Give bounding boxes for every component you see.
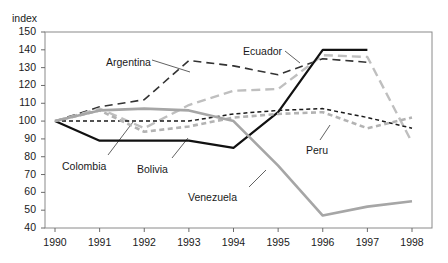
y-tick-label: 90 bbox=[2, 132, 36, 144]
series-label-bolivia: Bolivia bbox=[137, 163, 168, 175]
series-line-bolivia bbox=[55, 109, 412, 129]
x-tick-label: 1993 bbox=[169, 236, 209, 248]
y-tick-label: 60 bbox=[2, 185, 36, 197]
y-tick-label: 130 bbox=[2, 61, 36, 73]
x-tick-label: 1990 bbox=[35, 236, 75, 248]
series-label-venezuela: Venezuela bbox=[188, 191, 237, 203]
y-tick-label: 40 bbox=[2, 221, 36, 233]
leader-line-argentina bbox=[152, 60, 190, 72]
series-label-colombia: Colombia bbox=[62, 160, 106, 172]
y-tick-label: 110 bbox=[2, 96, 36, 108]
plot-frame bbox=[45, 32, 432, 228]
y-tick-label: 150 bbox=[2, 25, 36, 37]
y-tick-label: 120 bbox=[2, 78, 36, 90]
x-tick-label: 1995 bbox=[258, 236, 298, 248]
y-tick-label: 70 bbox=[2, 168, 36, 180]
x-tick-label: 1994 bbox=[214, 236, 254, 248]
series-label-peru: Peru bbox=[306, 144, 328, 156]
chart-plot-area bbox=[0, 0, 448, 263]
series-label-ecuador: Ecuador bbox=[243, 45, 282, 57]
leader-line-peru bbox=[320, 125, 330, 140]
x-tick-label: 1996 bbox=[303, 236, 343, 248]
y-tick-label: 50 bbox=[2, 203, 36, 215]
x-tick-label: 1998 bbox=[392, 236, 432, 248]
leader-line-colombia bbox=[108, 122, 133, 155]
y-tick-label: 140 bbox=[2, 43, 36, 55]
y-tick-label: 100 bbox=[2, 114, 36, 126]
series-label-argentina: Argentina bbox=[106, 56, 151, 68]
y-tick-label: 80 bbox=[2, 150, 36, 162]
x-tick-label: 1997 bbox=[347, 236, 387, 248]
series-line-ecuador bbox=[55, 55, 412, 142]
x-tick-label: 1991 bbox=[80, 236, 120, 248]
leader-line-venezuela bbox=[249, 170, 266, 187]
x-tick-label: 1992 bbox=[124, 236, 164, 248]
leader-line-ecuador bbox=[285, 51, 300, 63]
chart-container: index 150140130120110100908070605040 199… bbox=[0, 0, 448, 263]
